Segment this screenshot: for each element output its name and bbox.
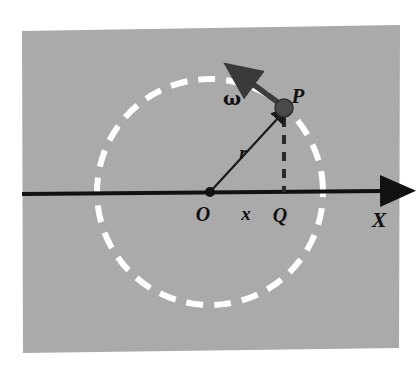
point-p-dot: [275, 99, 293, 117]
label-point-q: Q: [273, 204, 287, 226]
label-axis-x: X: [371, 207, 388, 232]
diagram-canvas: O P Q r x ω X: [0, 0, 420, 372]
label-displacement-x: x: [240, 203, 251, 224]
label-point-p: P: [291, 84, 305, 108]
physics-diagram-figure: O P Q r x ω X: [0, 0, 420, 372]
label-origin-o: O: [196, 203, 210, 225]
label-radius-r: r: [239, 142, 247, 163]
label-omega: ω: [223, 87, 241, 109]
origin-point-dot: [205, 187, 215, 197]
